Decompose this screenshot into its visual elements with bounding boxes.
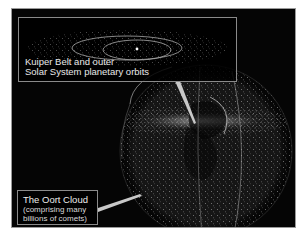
kuiper-label: Kuiper Belt and outer Solar System plane… — [25, 57, 149, 76]
sun-icon — [136, 48, 139, 51]
kuiper-belt-inset: Kuiper Belt and outer Solar System plane… — [18, 17, 237, 82]
oort-label-subtitle: (comprising many billions of comets) — [23, 205, 87, 223]
oort-cloud-label-box: The Oort Cloud (comprising many billions… — [17, 190, 98, 225]
oort-cloud-sphere — [112, 65, 292, 228]
oort-subtitle-line1: (comprising many — [23, 205, 87, 214]
oort-cloud-diagram: Kuiper Belt and outer Solar System plane… — [11, 8, 296, 228]
oort-label-title: The Oort Cloud — [23, 195, 88, 205]
kuiper-label-line2: Solar System planetary orbits — [25, 67, 149, 77]
oort-subtitle-line2: billions of comets) — [23, 214, 87, 223]
oort-pointer — [98, 194, 142, 212]
